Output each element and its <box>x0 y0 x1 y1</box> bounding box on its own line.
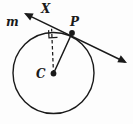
perpendicular-segment-cx <box>52 29 54 74</box>
label-point-p: P <box>70 16 79 28</box>
label-line-m: m <box>6 16 19 28</box>
point-p-marker <box>69 30 75 36</box>
label-point-x: X <box>41 3 50 15</box>
figure-canvas <box>0 0 133 124</box>
radius-segment-cp <box>54 33 73 74</box>
label-point-c: C <box>36 68 46 80</box>
right-angle-marker-icon <box>49 30 58 38</box>
geometry-figure: m X P C <box>0 0 133 124</box>
point-c-marker <box>51 71 57 77</box>
